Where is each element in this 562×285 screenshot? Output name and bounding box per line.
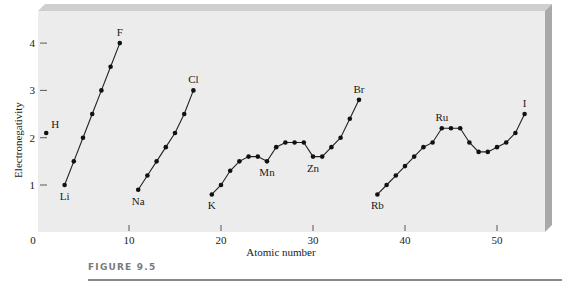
data-point — [348, 116, 353, 121]
data-point — [274, 145, 279, 150]
x-tick-label: 30 — [308, 234, 320, 246]
data-point — [467, 140, 472, 145]
element-label: Na — [132, 195, 145, 207]
element-label: H — [51, 118, 59, 130]
element-label: Cl — [188, 73, 198, 85]
data-point — [210, 192, 215, 197]
data-point — [191, 88, 196, 93]
y-tick-label: 1 — [30, 179, 36, 191]
data-point — [154, 159, 159, 164]
element-label: Br — [354, 83, 365, 95]
data-point — [338, 135, 343, 140]
x-tick-label: 10 — [124, 234, 136, 246]
data-point — [486, 150, 491, 155]
figure-caption: FIGURE 9.5 — [88, 262, 156, 272]
x-axis-label: Atomic number — [246, 246, 316, 258]
data-point — [476, 150, 481, 155]
y-tick-label: 3 — [30, 84, 36, 96]
panel-right-bevel — [545, 4, 552, 232]
data-point — [44, 131, 49, 136]
element-label: Li — [60, 190, 70, 202]
data-point — [375, 192, 380, 197]
caption-rule — [88, 279, 562, 281]
data-point — [237, 159, 242, 164]
data-point — [495, 145, 500, 150]
data-point — [265, 159, 270, 164]
data-point — [118, 41, 123, 46]
element-label: Zn — [307, 162, 320, 174]
data-point — [292, 140, 297, 145]
element-label: Ru — [435, 111, 448, 123]
data-point — [320, 154, 325, 159]
data-point — [283, 140, 288, 145]
data-point — [357, 98, 362, 103]
x-tick-label: 20 — [216, 234, 228, 246]
data-point — [164, 145, 169, 150]
data-point — [513, 131, 518, 136]
data-point — [421, 145, 426, 150]
data-point — [311, 154, 316, 159]
data-point — [302, 140, 307, 145]
data-point — [246, 154, 251, 159]
element-label: K — [208, 199, 216, 211]
data-point — [394, 173, 399, 178]
element-label: I — [523, 97, 527, 109]
panel-face — [38, 11, 545, 232]
panel-top-bevel — [38, 4, 552, 11]
element-label: F — [117, 26, 123, 38]
data-point — [403, 164, 408, 169]
data-point — [145, 173, 150, 178]
data-point — [90, 112, 95, 117]
data-point — [219, 183, 224, 188]
data-point — [136, 187, 141, 192]
data-point — [255, 154, 260, 159]
data-point — [72, 159, 77, 164]
electronegativity-chart: 1234 01020304050 Electronegativity Atomi… — [0, 0, 562, 285]
data-point — [458, 126, 463, 131]
data-point — [449, 126, 454, 131]
data-point — [329, 145, 334, 150]
plot-panel — [38, 4, 552, 232]
data-point — [430, 140, 435, 145]
data-point — [108, 64, 113, 69]
data-point — [62, 183, 67, 188]
x-tick-label: 0 — [30, 234, 36, 246]
data-point — [228, 169, 233, 174]
y-axis-label: Electronegativity — [12, 102, 24, 178]
element-label: Rb — [371, 199, 384, 211]
y-tick-label: 2 — [30, 132, 36, 144]
data-point — [173, 131, 178, 136]
data-point — [440, 126, 445, 131]
data-point — [99, 88, 104, 93]
data-point — [81, 135, 86, 140]
x-tick-label: 50 — [492, 234, 504, 246]
data-point — [504, 140, 509, 145]
data-point — [384, 183, 389, 188]
x-tick-label: 40 — [400, 234, 412, 246]
data-point — [412, 154, 417, 159]
y-tick-label: 4 — [30, 37, 36, 49]
data-point — [522, 112, 527, 117]
element-label: Mn — [259, 166, 275, 178]
data-point — [182, 112, 187, 117]
